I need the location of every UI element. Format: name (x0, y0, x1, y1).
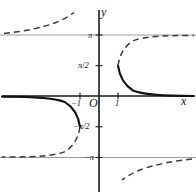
curve-principal-lower-left (2, 97, 80, 127)
curve-secondary-lower-left-dashed (2, 127, 80, 157)
x-axis-label: x (181, 95, 186, 107)
y-tick-label-pi: π (88, 31, 92, 40)
y-tick-label-neg-pi-over-2: −π/2 (73, 122, 90, 131)
x-tick-label-one: 1 (115, 99, 119, 108)
curve-periodic-lower-right-dashed (122, 159, 192, 180)
y-tick-label-pi-over-2: π/2 (78, 61, 89, 70)
curve-periodic-upper-left-dashed (4, 13, 74, 34)
origin-label: O (89, 97, 98, 109)
x-tick-label-neg-one: −1 (71, 99, 81, 108)
curve-secondary-upper-right-dashed (118, 35, 194, 65)
arcsec-function-plot: y x O −1 1 π π/2 −π/2 −π (0, 0, 196, 196)
plot-canvas (0, 0, 196, 196)
curve-principal-upper-right (118, 66, 194, 96)
y-axis-label: y (101, 6, 106, 18)
y-tick-label-neg-pi: −π (84, 153, 94, 162)
